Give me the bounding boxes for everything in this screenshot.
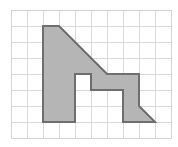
grid-figure-canvas — [0, 0, 178, 147]
figure-container — [0, 0, 178, 147]
